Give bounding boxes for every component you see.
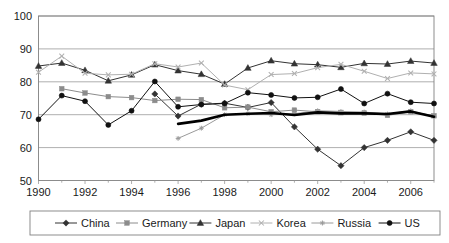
marker-us-1993 bbox=[106, 122, 111, 127]
marker-us-1991 bbox=[59, 93, 64, 98]
marker-germany-1993 bbox=[106, 94, 111, 99]
marker-germany-1996 bbox=[176, 97, 181, 102]
marker-germany-1994 bbox=[129, 95, 134, 100]
x-tick-label-2004: 2004 bbox=[352, 186, 376, 198]
marker-us-2000 bbox=[269, 92, 274, 97]
legend-marker-star-icon bbox=[320, 221, 325, 226]
x-tick-label-1990: 1990 bbox=[26, 186, 50, 198]
legend-marker-square-icon bbox=[125, 221, 130, 226]
legend-label-russia: Russia bbox=[337, 217, 372, 229]
legend-label-korea: Korea bbox=[276, 217, 306, 229]
x-axis-tick-labels: 199019921994199619982000200220042006 bbox=[26, 186, 423, 198]
marker-us-2004 bbox=[362, 101, 367, 106]
legend-label-china: China bbox=[81, 217, 111, 229]
marker-us-2006 bbox=[408, 100, 413, 105]
x-tick-label-1998: 1998 bbox=[212, 186, 236, 198]
marker-germany-1999 bbox=[246, 105, 251, 110]
marker-germany-1991 bbox=[59, 86, 64, 91]
marker-us-1994 bbox=[129, 108, 134, 113]
chart-background bbox=[0, 0, 449, 243]
x-tick-label-1994: 1994 bbox=[119, 186, 143, 198]
marker-us-2003 bbox=[338, 87, 343, 92]
y-tick-label-60: 60 bbox=[20, 142, 32, 154]
y-tick-label-70: 70 bbox=[20, 109, 32, 121]
legend-marker-circle-icon bbox=[387, 221, 392, 226]
marker-russia-1996 bbox=[176, 136, 181, 141]
line-chart: 1009080706050 19901992199419961998200020… bbox=[0, 0, 449, 243]
marker-us-1990 bbox=[36, 117, 41, 122]
marker-us-2002 bbox=[315, 95, 320, 100]
marker-us-2005 bbox=[385, 91, 390, 96]
marker-us-1999 bbox=[245, 90, 250, 95]
x-tick-label-2000: 2000 bbox=[259, 186, 283, 198]
marker-us-1997 bbox=[199, 102, 204, 107]
legend-label-germany: Germany bbox=[142, 217, 188, 229]
marker-russia-1997 bbox=[199, 126, 204, 131]
chart-container: 1009080706050 19901992199419961998200020… bbox=[0, 0, 449, 243]
y-tick-label-80: 80 bbox=[20, 76, 32, 88]
marker-germany-1997 bbox=[199, 97, 204, 102]
marker-us-2001 bbox=[292, 95, 297, 100]
marker-us-1998 bbox=[222, 101, 227, 106]
y-tick-label-100: 100 bbox=[14, 10, 32, 22]
marker-us-1995 bbox=[152, 79, 157, 84]
chart-legend: ChinaGermanyJapanKoreaRussiaUS bbox=[30, 211, 440, 235]
legend-label-japan: Japan bbox=[215, 217, 245, 229]
x-tick-label-2006: 2006 bbox=[398, 186, 422, 198]
x-tick-label-1992: 1992 bbox=[73, 186, 97, 198]
marker-us-1996 bbox=[176, 104, 181, 109]
marker-germany-1995 bbox=[153, 98, 158, 103]
x-tick-label-2002: 2002 bbox=[305, 186, 329, 198]
marker-us-1992 bbox=[83, 99, 88, 104]
y-tick-label-90: 90 bbox=[20, 43, 32, 55]
x-tick-label-1996: 1996 bbox=[166, 186, 190, 198]
marker-us-2007 bbox=[432, 101, 437, 106]
legend-label-us: US bbox=[405, 217, 420, 229]
marker-germany-1992 bbox=[83, 91, 88, 96]
